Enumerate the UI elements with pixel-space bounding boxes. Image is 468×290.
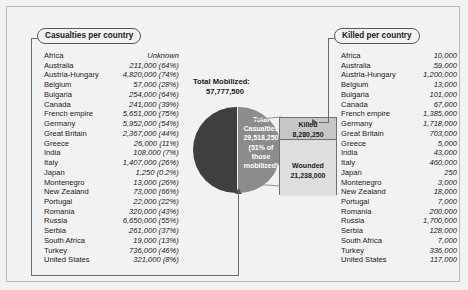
explosion-leader-lines	[237, 107, 283, 197]
left-callout-horizontal	[31, 275, 239, 276]
wounded-label: Wounded	[280, 161, 336, 171]
killed-table-body: Africa10,000Australia59,000Austria-Hunga…	[341, 52, 457, 266]
left-callout-stub	[31, 38, 38, 39]
table-row: United States321,000 (8%)	[44, 256, 179, 266]
killed-wounded-stacked-bar: Killed 8,280,250 Wounded 21,238,000	[279, 117, 337, 195]
casualties-panel-title: Casualties per country	[37, 28, 141, 44]
killed-per-country-table: Africa10,000Australia59,000Austria-Hunga…	[341, 52, 457, 266]
country-name: United States	[44, 256, 105, 266]
total-mobilized-caption: Total Mobilized: 57,777,500	[193, 77, 293, 98]
table-row: United States117,000	[341, 256, 457, 266]
total-mobilized-label: Total Mobilized:	[193, 77, 250, 86]
pie-split-rule	[238, 107, 239, 194]
country-value: 321,000 (8%)	[105, 256, 179, 266]
total-mobilized-value: 57,777,500	[193, 87, 293, 97]
left-callout-vertical	[238, 193, 239, 275]
right-callout-riser	[328, 38, 329, 123]
country-value: 117,000	[402, 256, 457, 266]
right-callout-stub	[328, 38, 335, 39]
left-callout-riser	[31, 38, 32, 276]
casualties-per-country-table: AfricaUnknownAustralia211,000 (64%)Austr…	[44, 52, 179, 266]
bar-segment-wounded: Wounded 21,238,000	[280, 141, 336, 196]
wounded-value: 21,238,000	[280, 171, 336, 181]
casualties-table-body: AfricaUnknownAustralia211,000 (64%)Austr…	[44, 52, 179, 266]
country-name: United States	[341, 256, 402, 266]
killed-panel-title: Killed per country	[334, 28, 420, 44]
right-callout-arrow-icon	[312, 119, 320, 127]
killed-value: 8,280,250	[280, 130, 336, 140]
pie-slice-survived	[193, 107, 237, 193]
left-callout-arrow-icon	[235, 188, 243, 196]
infographic-frame: Casualties per country AfricaUnknownAust…	[6, 6, 460, 282]
